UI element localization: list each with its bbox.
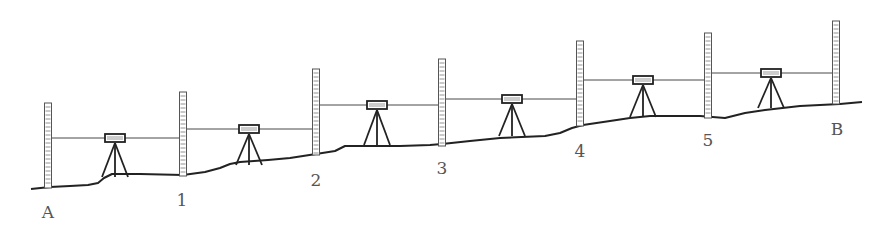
- leveling-staff: [439, 59, 446, 146]
- point-label: 3: [437, 158, 448, 178]
- leveling-staff: [45, 103, 52, 188]
- leveling-staff: [313, 69, 320, 155]
- level-instrument: [758, 69, 784, 108]
- point-label: B: [831, 119, 844, 139]
- point-label: A: [41, 202, 55, 222]
- leveling-staff: [705, 33, 712, 118]
- point-label: 5: [703, 130, 714, 150]
- level-instrument: [236, 125, 262, 165]
- level-instrument: [364, 101, 390, 145]
- point-label: 4: [575, 141, 586, 161]
- point-label: 1: [177, 190, 188, 210]
- level-instrument: [630, 76, 656, 117]
- leveling-staff: [577, 41, 584, 126]
- level-instrument: [102, 134, 128, 177]
- leveling-staff: [180, 92, 187, 176]
- leveling-diagram: A12345B: [0, 0, 882, 228]
- point-label: 2: [311, 170, 322, 190]
- level-instrument: [499, 95, 525, 136]
- leveling-staff: [833, 21, 840, 104]
